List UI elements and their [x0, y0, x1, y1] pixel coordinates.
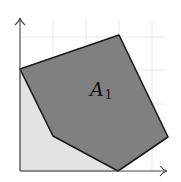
diagram-canvas: A1	[0, 0, 181, 182]
region-label-sub: 1	[105, 88, 113, 102]
region-label-main: A	[88, 78, 104, 100]
